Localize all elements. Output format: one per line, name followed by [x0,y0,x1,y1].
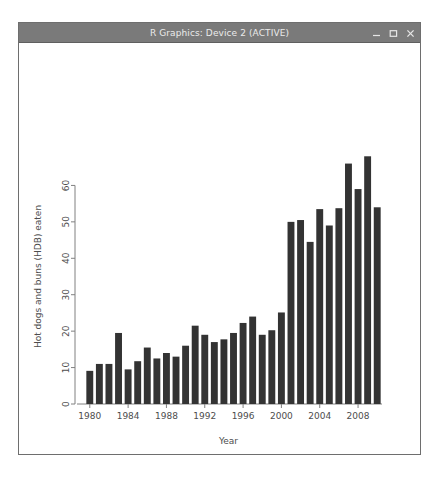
bar [307,242,314,404]
x-axis-tick-label: 2004 [308,411,331,421]
bar [144,348,151,404]
x-axis-tick-label: 1984 [117,411,140,421]
window-titlebar[interactable]: R Graphics: Device 2 (ACTIVE) [19,23,420,43]
bar [297,220,304,404]
y-axis-tick-label: 60 [61,179,71,191]
bar [220,339,227,404]
y-axis-title: Hot dogs and buns (HDB) eaten [33,205,43,348]
bar [374,207,381,404]
r-graphics-window: R Graphics: Device 2 (ACTIVE) [18,22,421,455]
y-axis-tick-label: 10 [61,362,71,374]
bar [249,317,256,404]
bar [364,156,371,404]
close-button[interactable] [406,29,415,38]
x-axis-tick-label: 1996 [232,411,255,421]
bar [268,330,275,404]
bar [326,226,333,405]
bar-series [86,156,380,404]
y-axis-tick-label: 50 [61,216,71,228]
bar [106,364,113,404]
bar [163,353,170,404]
x-axis-tick-label: 2008 [347,411,370,421]
x-axis: 19801984198819921996200020042008 [77,404,382,421]
y-axis-tick-label: 20 [61,325,71,337]
bar [192,326,199,404]
bar [355,189,362,404]
minimize-button[interactable] [372,29,381,38]
x-axis-tick-label: 2000 [270,411,293,421]
maximize-button[interactable] [389,29,398,38]
y-axis: 0102030405060 [61,179,75,406]
bar [134,361,141,404]
desktop-background: R Graphics: Device 2 (ACTIVE) [0,0,441,478]
bar [182,346,189,404]
bar [316,209,323,404]
bar [201,335,208,404]
window-title: R Graphics: Device 2 (ACTIVE) [150,28,289,38]
bar [230,333,237,404]
bar-chart: 0102030405060 19801984198819921996200020… [19,43,420,454]
y-axis-tick-label: 30 [61,289,71,301]
bar [125,369,132,404]
bar [240,323,247,404]
bar [211,342,218,404]
bar [86,371,93,404]
r-plot-canvas: 0102030405060 19801984198819921996200020… [19,43,420,454]
bar [173,357,180,404]
bar [345,164,352,404]
window-controls [372,23,415,43]
bar [288,222,295,404]
bar [278,312,285,404]
y-axis-tick-label: 40 [61,252,71,264]
bar [259,335,266,404]
x-axis-tick-label: 1980 [78,411,101,421]
x-axis-tick-label: 1992 [193,411,216,421]
bar [96,364,103,404]
x-axis-tick-label: 1988 [155,411,178,421]
x-axis-title: Year [218,436,238,446]
bar [115,333,122,404]
bar [153,358,160,404]
y-axis-tick-label: 0 [61,401,71,407]
bar [335,208,342,404]
